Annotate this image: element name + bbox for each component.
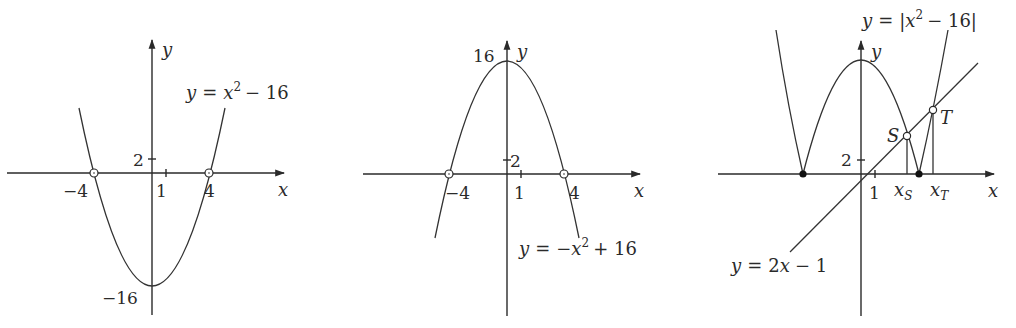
line-label: y=2x− 1 (730, 255, 827, 276)
zero-dot (915, 170, 922, 177)
figure-three-graphs: y x −4 1 4 2 −16 y=x2− 16 y x −4 1 4 2 1… (0, 0, 1016, 328)
x-axis-label: x (278, 179, 288, 200)
tick-label-4: 4 (204, 181, 215, 201)
x-axis-label: x (634, 180, 644, 201)
point-s-label: S (887, 125, 899, 146)
x-axis-label: x (988, 180, 998, 201)
point-t-marker (929, 106, 936, 113)
y-axis-label: y (516, 41, 528, 62)
tick-label-16: 16 (473, 46, 495, 66)
tick-label-2: 2 (841, 150, 852, 170)
tick-label-1: 1 (156, 181, 167, 201)
tick-label-2: 2 (510, 151, 521, 171)
tick-label-2: 2 (133, 150, 144, 170)
zero-dot (799, 170, 806, 177)
y-axis-label: y (870, 41, 882, 62)
curve-abs-left-branch (776, 30, 803, 174)
line-2x-minus-1 (790, 63, 978, 252)
curve-label: y=|x2− 16| (861, 8, 977, 32)
xt-label: xT (930, 179, 949, 203)
tick-label-4: 4 (569, 183, 580, 203)
tick-label-1: 1 (514, 183, 525, 203)
point-s-marker (903, 132, 910, 139)
curve-label: y=−x2+ 16 (518, 236, 637, 259)
y-axis-label: y (161, 39, 173, 60)
tick-label-1: 1 (869, 183, 880, 203)
graph-2-parabola-down: y x −4 1 4 2 16 y=−x2+ 16 (363, 41, 644, 316)
graph-1-parabola-up: y x −4 1 4 2 −16 y=x2− 16 (7, 39, 289, 315)
tick-label-neg16: −16 (102, 288, 138, 308)
curve-label: y=x2− 16 (185, 80, 289, 103)
xs-label: xS (894, 179, 912, 203)
point-t-label: T (940, 107, 954, 128)
tick-label-neg4: −4 (445, 183, 470, 203)
tick-label-neg4: −4 (63, 181, 88, 201)
graph-3-abs-and-line: y x 1 2 S T xS xT y=|x2− 16| y=2x− 1 (718, 8, 998, 316)
